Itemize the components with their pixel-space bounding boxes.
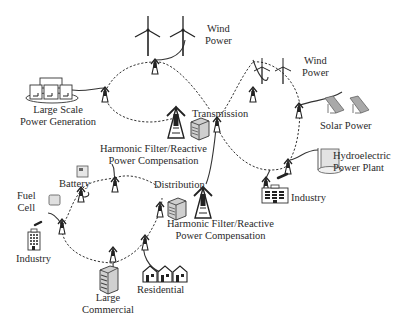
label-wind-power-top: Wind Power [205, 23, 232, 47]
large-commercial-icon [100, 266, 118, 294]
large-scale-generation-icon [26, 78, 78, 103]
label-distribution: Distribution [154, 179, 205, 191]
label-hydroelectric: Hydroelectric Power Plant [333, 150, 391, 174]
fuel-cell-icon [49, 195, 60, 205]
label-industry-left: Industry [16, 253, 51, 265]
label-battery: Battery [59, 178, 90, 190]
label-harmonic-filter-top: Harmonic Filter/Reactive Power Compensat… [100, 143, 207, 167]
label-residential: Residential [137, 284, 184, 296]
battery-icon [77, 166, 88, 177]
label-industry-right: Industry [291, 192, 326, 204]
label-wind-power-right: Wind Power [302, 55, 329, 79]
label-large-scale-generation: Large Scale Power Generation [20, 104, 96, 128]
label-fuel-cell: Fuel Cell [17, 190, 36, 214]
industry-left-icon [28, 222, 41, 250]
smart-grid-diagram: Wind Power Wind Power Large Scale Power … [0, 0, 399, 325]
label-transmission: Transmission [192, 108, 248, 120]
label-solar-power: Solar Power [320, 120, 372, 132]
label-large-commercial: Large Commercial [82, 292, 134, 316]
label-harmonic-filter-bottom: Harmonic Filter/Reactive Power Compensat… [167, 218, 274, 242]
solar-panels-icon [325, 96, 369, 113]
